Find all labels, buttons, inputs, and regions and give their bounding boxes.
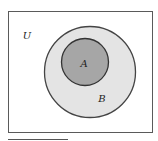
universe-label: U — [23, 30, 32, 41]
set-b-label: B — [97, 93, 105, 104]
set-a-label: A — [79, 58, 87, 69]
venn-diagram: U A B — [0, 0, 158, 141]
